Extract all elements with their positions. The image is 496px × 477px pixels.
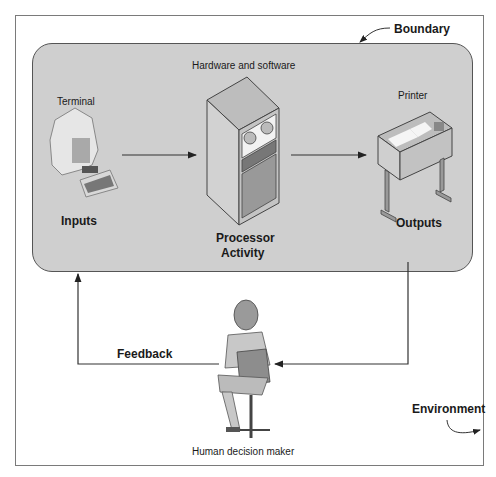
human-decision-maker-icon [218,300,270,438]
human-decision-maker-label: Human decision maker [192,446,294,457]
printer-icon [378,112,452,222]
terminal-icon [50,108,118,197]
printer-label: Printer [398,90,427,101]
feedback-label: Feedback [117,347,172,361]
environment-pointer-arrow [447,420,480,433]
inputs-label: Inputs [61,214,97,228]
output-to-decision-maker-line [275,262,408,364]
processor-label-line2: Activity [221,246,264,260]
hardware-software-label: Hardware and software [192,60,295,71]
terminal-label: Terminal [57,96,95,107]
environment-label: Environment [412,402,485,416]
outputs-label: Outputs [396,216,442,230]
boundary-label: Boundary [394,22,450,36]
processor-label-line1: Processor [216,231,275,245]
processor-cabinet-icon [207,77,279,225]
boundary-pointer-arrow [360,28,390,42]
